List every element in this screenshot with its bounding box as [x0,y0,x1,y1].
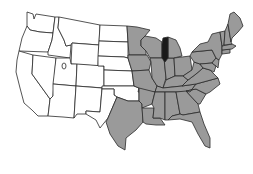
great-salt-lake [62,63,66,69]
state-north-dakota [99,25,128,42]
state-colorado [76,64,104,88]
lake-michigan-highlight [162,37,168,62]
state-south-dakota [98,41,128,58]
us-map-svg [0,0,253,174]
state-maine [228,12,243,42]
state-florida [168,112,210,148]
state-iowa [128,55,151,71]
us-map [0,0,253,174]
state-mississippi [152,92,165,120]
state-michigan [168,37,182,58]
highlighted-region [162,37,168,62]
state-kansas [104,70,134,86]
state-wyoming [71,43,99,66]
state-montana [58,17,100,46]
